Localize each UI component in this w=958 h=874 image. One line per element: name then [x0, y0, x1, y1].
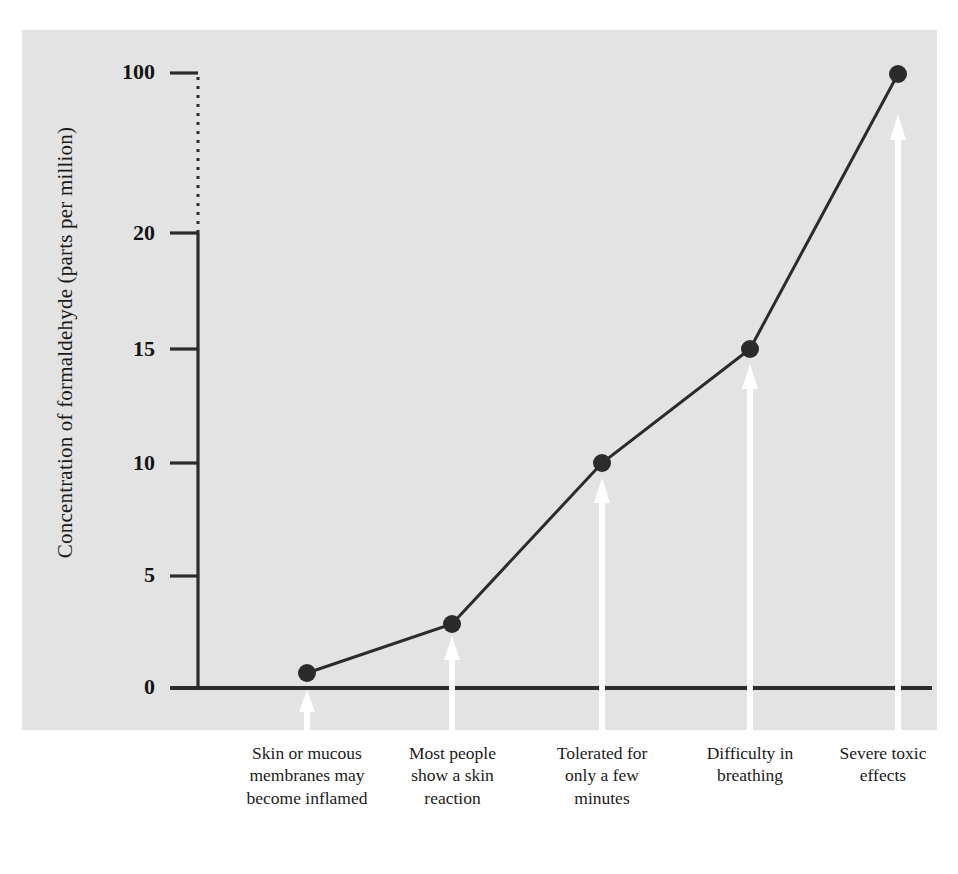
caption-strip: [22, 838, 937, 868]
figure-page: Concentration of formaldehyde (parts per…: [0, 0, 958, 874]
data-point-3: [593, 454, 611, 472]
callout-arrow-3: [594, 478, 610, 736]
callout-arrow-5: [890, 114, 906, 736]
x-category-label-5: Severe toxic effects: [808, 742, 958, 787]
callout-arrows: [299, 114, 906, 736]
callout-arrow-4: [742, 364, 758, 736]
data-point-4: [741, 340, 759, 358]
callout-arrow-1: [299, 690, 315, 736]
data-point-5: [889, 65, 907, 83]
data-point-1: [298, 664, 316, 682]
data-point-2: [443, 615, 461, 633]
